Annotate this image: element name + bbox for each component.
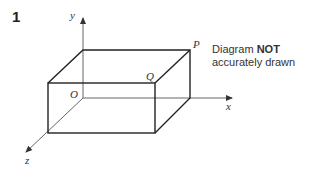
- cuboid-diagram: y x z O P Q: [0, 0, 309, 171]
- origin-label: O: [70, 88, 78, 100]
- z-axis-label: z: [24, 154, 30, 166]
- point-q-label: Q: [146, 70, 154, 82]
- y-axis-label: y: [69, 9, 75, 21]
- z-axis: [26, 98, 83, 152]
- x-axis-label: x: [225, 100, 231, 112]
- point-p-label: P: [192, 38, 200, 50]
